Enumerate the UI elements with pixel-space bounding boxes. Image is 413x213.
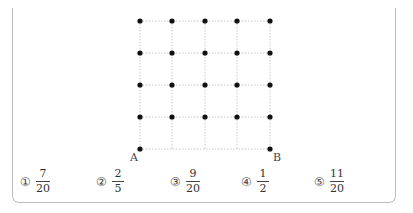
choice-4[interactable]: ④ 1 2 bbox=[241, 168, 269, 195]
fraction: 9 20 bbox=[186, 168, 200, 195]
choice-1[interactable]: ① 7 20 bbox=[20, 168, 50, 195]
answer-choices: ① 7 20 ② 2 5 ③ 9 20 ④ 1 2 ⑤ 11 bbox=[20, 168, 400, 198]
point-a bbox=[137, 146, 142, 151]
choice-marker: ② bbox=[96, 175, 107, 189]
point-b-label: B bbox=[273, 151, 281, 164]
numerator: 11 bbox=[330, 168, 344, 180]
choice-marker: ① bbox=[20, 175, 31, 189]
choice-marker: ⑤ bbox=[314, 175, 325, 189]
choice-5[interactable]: ⑤ 11 20 bbox=[314, 168, 344, 195]
denominator: 20 bbox=[330, 183, 344, 195]
numerator: 9 bbox=[190, 168, 197, 180]
point-a-label: A bbox=[130, 151, 138, 164]
fraction: 2 5 bbox=[112, 168, 124, 195]
numerator: 2 bbox=[115, 168, 122, 180]
numerator: 1 bbox=[260, 168, 267, 180]
choice-marker: ④ bbox=[241, 175, 252, 189]
denominator: 2 bbox=[260, 183, 267, 195]
denominator: 20 bbox=[186, 183, 200, 195]
fraction: 1 2 bbox=[257, 168, 269, 195]
choice-3[interactable]: ③ 9 20 bbox=[170, 168, 200, 195]
choice-marker: ③ bbox=[170, 175, 181, 189]
fraction: 7 20 bbox=[36, 168, 50, 195]
denominator: 20 bbox=[36, 183, 50, 195]
denominator: 5 bbox=[115, 183, 122, 195]
point-b bbox=[267, 146, 272, 151]
numerator: 7 bbox=[40, 168, 47, 180]
fraction: 11 20 bbox=[330, 168, 344, 195]
choice-2[interactable]: ② 2 5 bbox=[96, 168, 124, 195]
